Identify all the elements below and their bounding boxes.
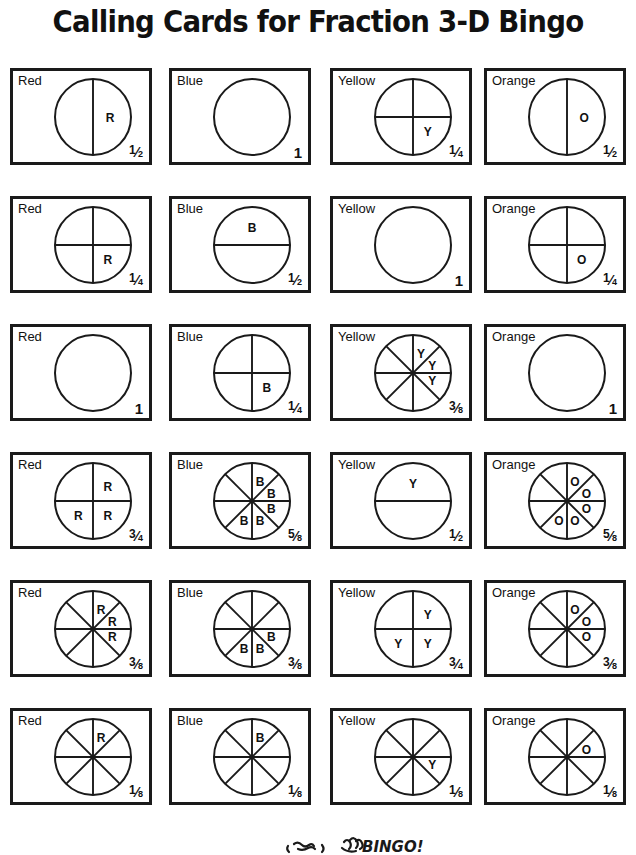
card-fraction-label: 1⁄8 (129, 785, 143, 800)
card-fraction-label: 1 (609, 401, 617, 416)
calling-card[interactable]: YellowY1⁄4 (330, 68, 472, 165)
card-fraction-label: 1⁄2 (288, 273, 302, 288)
fraction-denominator: 8 (297, 787, 302, 802)
calling-card[interactable]: BlueB1⁄8 (169, 708, 311, 805)
calling-card[interactable]: YellowYYY3⁄8 (330, 324, 472, 421)
calling-card[interactable]: RedR1⁄8 (10, 708, 152, 805)
svg-text:Y: Y (409, 477, 417, 491)
card-fraction-label: 3⁄8 (603, 657, 617, 672)
card-row: RedR1⁄4BlueB1⁄2Yellow1OrangeO1⁄4 (10, 196, 630, 324)
svg-text:O: O (582, 615, 591, 629)
svg-text:Y: Y (428, 374, 436, 388)
svg-text:Y: Y (417, 347, 425, 361)
fraction-numerator: 3 (449, 399, 456, 414)
fraction-value: 1⁄8 (129, 785, 143, 800)
svg-text:R: R (103, 480, 112, 494)
fraction-value: 3⁄8 (603, 657, 617, 672)
fraction-numerator: 1 (603, 783, 610, 798)
fraction-numerator: 1 (129, 783, 136, 798)
fraction-denominator: 2 (612, 147, 617, 162)
calling-card[interactable]: YellowYYY3⁄4 (330, 580, 472, 677)
fraction-value: 1⁄4 (603, 273, 617, 288)
fraction-denominator: 2 (297, 275, 302, 290)
fraction-value: 1 (609, 401, 617, 416)
card-color-label: Red (18, 74, 42, 88)
fraction-value: 3⁄4 (449, 657, 463, 672)
svg-text:O: O (554, 514, 563, 528)
fraction-value: 5⁄8 (603, 529, 617, 544)
footer-doodle: BINGO! (284, 826, 484, 855)
card-fraction-label: 3⁄4 (129, 529, 143, 544)
calling-card[interactable]: Orange1 (484, 324, 626, 421)
fraction-denominator: 8 (297, 659, 302, 674)
calling-card[interactable]: BlueBBB3⁄8 (169, 580, 311, 677)
fraction-denominator: 4 (458, 147, 463, 162)
fraction-value: 1⁄4 (129, 273, 143, 288)
calling-card[interactable]: RedR1⁄2 (10, 68, 152, 165)
calling-card[interactable]: OrangeOOO3⁄8 (484, 580, 626, 677)
fraction-numerator: 3 (129, 655, 136, 670)
calling-card[interactable]: Blue1 (169, 68, 311, 165)
svg-text:B: B (262, 381, 271, 395)
fraction-numerator: 1 (603, 271, 610, 286)
calling-card[interactable]: YellowY1⁄8 (330, 708, 472, 805)
card-color-label: Blue (177, 202, 203, 216)
fraction-value: 1⁄8 (603, 785, 617, 800)
calling-card[interactable]: RedR1⁄4 (10, 196, 152, 293)
svg-text:R: R (108, 630, 117, 644)
card-fraction-label: 3⁄8 (449, 401, 463, 416)
card-fraction-label: 1⁄4 (603, 273, 617, 288)
card-row: RedR1⁄8BlueB1⁄8YellowY1⁄8OrangeO1⁄8 (10, 708, 630, 836)
fraction-value: 5⁄8 (288, 529, 302, 544)
doodle-word: BINGO! (362, 838, 423, 855)
card-fraction-label: 1⁄2 (449, 529, 463, 544)
fraction-value: 1⁄8 (449, 785, 463, 800)
svg-text:O: O (577, 253, 586, 267)
fraction-circle-diagram (525, 331, 609, 415)
fraction-denominator: 8 (458, 787, 463, 802)
card-color-label: Red (18, 330, 42, 344)
fraction-circle-diagram: B (210, 715, 294, 799)
fraction-numerator: 3 (603, 655, 610, 670)
fraction-circle-diagram (210, 75, 294, 159)
card-fraction-label: 3⁄4 (449, 657, 463, 672)
calling-card[interactable]: BlueBBBBB5⁄8 (169, 452, 311, 549)
calling-card[interactable]: BlueB1⁄4 (169, 324, 311, 421)
fraction-circle-diagram: Y (371, 75, 455, 159)
card-color-label: Blue (177, 74, 203, 88)
fraction-value: 1⁄2 (288, 273, 302, 288)
svg-text:O: O (579, 111, 588, 125)
card-color-label: Red (18, 714, 42, 728)
fraction-value: 1 (294, 145, 302, 160)
fraction-circle-diagram: YYY (371, 331, 455, 415)
calling-card[interactable]: OrangeO1⁄2 (484, 68, 626, 165)
calling-card[interactable]: OrangeO1⁄8 (484, 708, 626, 805)
card-color-label: Yellow (338, 714, 375, 728)
card-fraction-label: 1⁄8 (603, 785, 617, 800)
calling-card[interactable]: OrangeOOOOO5⁄8 (484, 452, 626, 549)
fraction-circle-diagram: B (210, 203, 294, 287)
card-fraction-label: 1 (135, 401, 143, 416)
card-color-label: Blue (177, 714, 203, 728)
svg-text:B: B (256, 475, 265, 489)
fraction-numerator: 1 (288, 783, 295, 798)
calling-card[interactable]: YellowY1⁄2 (330, 452, 472, 549)
page-title: Calling Cards for Fraction 3-D Bingo (25, 4, 610, 39)
calling-card[interactable]: Red1 (10, 324, 152, 421)
fraction-denominator: 8 (297, 531, 302, 546)
fraction-value: 1 (455, 273, 463, 288)
fraction-value: 1⁄2 (449, 529, 463, 544)
fraction-circle-diagram: RRR (51, 459, 135, 543)
card-color-label: Blue (177, 586, 203, 600)
fraction-circle-diagram (51, 331, 135, 415)
calling-cards-grid: RedR1⁄2Blue1YellowY1⁄4OrangeO1⁄2RedR1⁄4B… (10, 68, 630, 836)
svg-text:O: O (582, 502, 591, 516)
calling-card[interactable]: RedRRR3⁄4 (10, 452, 152, 549)
svg-text:R: R (103, 253, 112, 267)
calling-card[interactable]: RedRRR3⁄8 (10, 580, 152, 677)
fraction-denominator: 8 (138, 659, 143, 674)
calling-card[interactable]: BlueB1⁄2 (169, 196, 311, 293)
calling-card[interactable]: Yellow1 (330, 196, 472, 293)
calling-card[interactable]: OrangeO1⁄4 (484, 196, 626, 293)
card-color-label: Yellow (338, 330, 375, 344)
